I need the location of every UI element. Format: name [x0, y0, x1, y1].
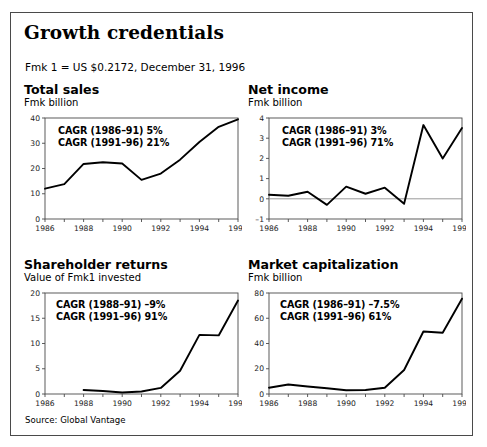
x-tick-label: 1996	[228, 224, 242, 233]
x-tick-label: 1994	[414, 224, 433, 233]
y-tick-label: 4	[259, 114, 264, 123]
y-tick-label: 10	[30, 189, 40, 198]
cagr-line-1: CAGR (1988–91) –9%	[56, 299, 167, 311]
cagr-line-1: CAGR (1986–91) 5%	[58, 125, 169, 137]
x-tick-label: 1990	[113, 224, 132, 233]
chart-subtitle: Value of Fmk1 invested	[24, 273, 141, 284]
chart-title: Total sales	[24, 83, 99, 96]
y-tick-label: 40	[30, 114, 40, 123]
y-tick-label: 5	[35, 364, 40, 373]
page-title: Growth credentials	[24, 22, 224, 43]
x-tick-label: 1988	[74, 224, 93, 233]
chart-panel-market-capitalization: Market capitalization Fmk billion 020406…	[248, 258, 466, 410]
x-tick-label: 1990	[337, 224, 356, 233]
x-tick-label: 1992	[375, 224, 394, 233]
x-tick-label: 1988	[298, 224, 317, 233]
x-tick-label: 1996	[452, 224, 466, 233]
y-tick-label: 2	[259, 154, 264, 163]
x-tick-label: 1992	[151, 399, 170, 408]
y-tick-label: 10	[30, 339, 40, 348]
x-tick-label: 1992	[375, 399, 394, 408]
cagr-annotation: CAGR (1986–91) –7.5%CAGR (1991–96) 61%	[280, 299, 399, 322]
x-tick-label: 1986	[259, 224, 278, 233]
y-tick-label: 1	[259, 174, 264, 183]
cagr-annotation: CAGR (1986–91) 3%CAGR (1991–96) 71%	[282, 125, 393, 148]
x-tick-label: 1988	[298, 399, 317, 408]
source-note: Source: Global Vantage	[25, 415, 126, 425]
y-tick-label: 20	[30, 289, 40, 298]
chart-title: Market capitalization	[248, 258, 398, 271]
x-tick-label: 1988	[74, 399, 93, 408]
y-tick-label: 0	[35, 390, 40, 399]
x-tick-label: 1990	[113, 399, 132, 408]
x-tick-label: 1992	[151, 224, 170, 233]
cagr-line-2: CAGR (1991–96) 61%	[280, 311, 399, 323]
y-tick-label: 60	[254, 314, 264, 323]
chart-title: Net income	[248, 83, 329, 96]
y-tick-label: 15	[30, 314, 40, 323]
figure-panel: Growth credentials Fmk 1 = US $0.2172, D…	[10, 12, 473, 436]
chart-panel-total-sales: Total sales Fmk billion 0102030401986198…	[24, 83, 242, 235]
x-tick-label: 1994	[414, 399, 433, 408]
y-tick-label: 30	[30, 139, 40, 148]
exchange-rate-note: Fmk 1 = US $0.2172, December 31, 1996	[25, 61, 245, 73]
chart-subtitle: Fmk billion	[24, 98, 78, 109]
y-tick-label: 0	[259, 390, 264, 399]
x-tick-label: 1996	[452, 399, 466, 408]
cagr-line-2: CAGR (1991–96) 21%	[58, 137, 169, 149]
chart-panel-shareholder-returns: Shareholder returns Value of Fmk1 invest…	[24, 258, 242, 410]
x-tick-label: 1986	[35, 399, 54, 408]
cagr-line-2: CAGR (1991–96) 71%	[282, 137, 393, 149]
y-tick-label: 0	[259, 195, 264, 204]
y-tick-label: 40	[254, 339, 264, 348]
y-tick-label: 20	[254, 364, 264, 373]
chart-subtitle: Fmk billion	[248, 273, 302, 284]
cagr-line-1: CAGR (1986–91) –7.5%	[280, 299, 399, 311]
chart-title: Shareholder returns	[24, 258, 168, 271]
cagr-line-1: CAGR (1986–91) 3%	[282, 125, 393, 137]
y-tick-label: 80	[254, 289, 264, 298]
x-tick-label: 1986	[35, 224, 54, 233]
chart-panel-net-income: Net income Fmk billion –1012341986198819…	[248, 83, 466, 235]
y-tick-label: 3	[259, 134, 264, 143]
x-tick-label: 1996	[228, 399, 242, 408]
cagr-annotation: CAGR (1986–91) 5%CAGR (1991–96) 21%	[58, 125, 169, 148]
y-tick-label: 0	[35, 215, 40, 224]
y-tick-label: –1	[255, 215, 264, 224]
x-tick-label: 1986	[259, 399, 278, 408]
cagr-annotation: CAGR (1988–91) –9%CAGR (1991–96) 91%	[56, 299, 167, 322]
y-tick-label: 20	[30, 164, 40, 173]
x-tick-label: 1990	[337, 399, 356, 408]
chart-subtitle: Fmk billion	[248, 98, 302, 109]
cagr-line-2: CAGR (1991–96) 91%	[56, 311, 167, 323]
x-tick-label: 1994	[190, 224, 209, 233]
x-tick-label: 1994	[190, 399, 209, 408]
